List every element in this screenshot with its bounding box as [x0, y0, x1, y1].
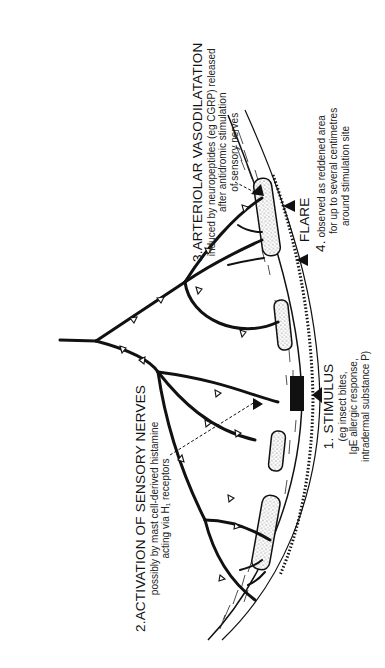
flare-marker-lower-icon	[296, 254, 308, 266]
activation-pointer-icon	[253, 398, 263, 410]
label-activation: 2.ACTIVATION OF SENSORY NERVES possibly …	[133, 385, 172, 632]
vasodilatation-line-3: of sensory nerves	[229, 43, 241, 262]
flare-heading: 4.FLARE	[297, 108, 313, 252]
label-flare: 4.FLARE 4. observed as reddened area for…	[297, 108, 351, 252]
activation-line-2: acting via H₁ receptors	[160, 385, 172, 632]
axon-reflex-diagram: 3.ARTERIOLAR VASODILATATION induced by n…	[0, 0, 385, 668]
flare-line-3: around stimulation site	[340, 108, 352, 252]
vasodilatation-line-2: after antidromic stimulation	[217, 43, 229, 262]
label-stimulus: 1. STIMULUS (eg insect bites, IgE allerg…	[321, 351, 371, 462]
stimulus-line-2: IgE allergic response,	[348, 351, 360, 462]
vasodilatation-heading: 3.ARTERIOLAR VASODILATATION	[190, 43, 206, 262]
vasodilatation-line-1: induced by neuropeptides (eg CGRP) relea…	[206, 43, 218, 262]
arteriole-middle	[273, 299, 292, 350]
stimulus-line-3: intradermal substance P)	[360, 351, 372, 462]
stimulus-heading: 1. STIMULUS	[321, 351, 337, 462]
stimulus-block	[290, 376, 304, 411]
activation-leader	[170, 402, 255, 455]
flare-line-2: for up to several centimetres	[328, 108, 340, 252]
arteriole-lower	[268, 430, 286, 471]
label-vasodilatation: 3.ARTERIOLAR VASODILATATION induced by n…	[190, 43, 240, 262]
activation-line-1: possibly by mast cell-derived histamine	[149, 385, 161, 632]
stimulus-line-1: (eg insect bites,	[337, 351, 349, 462]
arterioles	[251, 177, 293, 571]
flare-line-1: 4. observed as reddened area	[313, 108, 329, 252]
activation-heading: 2.ACTIVATION OF SENSORY NERVES	[133, 385, 149, 632]
